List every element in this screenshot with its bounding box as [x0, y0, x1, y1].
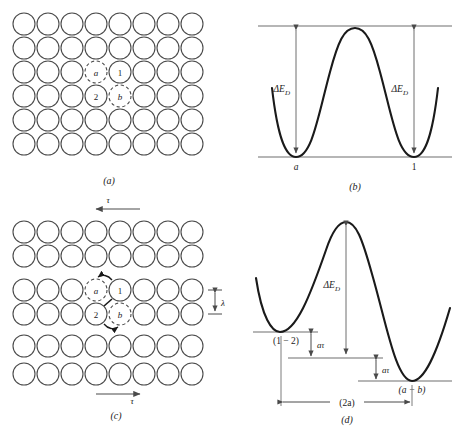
well-label-b-1: 1: [412, 162, 417, 172]
well-label-b-a: a: [294, 162, 299, 172]
barrier-label-b-left: ΔED: [273, 84, 290, 97]
barrier-label-b-right: ΔED: [391, 84, 408, 97]
well-label-d-1: (1 − 2): [273, 336, 299, 347]
atom-label-2-c: 2: [94, 310, 99, 320]
barrier-label-d: ΔED: [323, 280, 340, 293]
atom-label-1: 1: [118, 68, 123, 78]
step-label-d-1: aτ: [317, 340, 325, 350]
lambda-dimension: λ: [208, 290, 225, 314]
atom-label-1-c: 1: [118, 286, 123, 296]
panel-b: ΔED ΔED a 1 (b): [258, 26, 452, 193]
atom-label-2: 2: [94, 92, 99, 102]
atom-label-a-c: a: [94, 286, 99, 296]
atom-label-b-c: b: [118, 310, 123, 320]
step-label-d-2: aτ: [382, 365, 390, 375]
panel-b-caption: (b): [349, 181, 361, 193]
panel-d: ΔED aτ aτ (1 − 2) (a − b) (2a) (d): [253, 222, 452, 426]
atom-label-b: b: [118, 92, 123, 102]
panel-c-caption: (c): [110, 410, 122, 422]
motion-arrow-1-to-a: [98, 275, 112, 280]
lambda-label: λ: [220, 298, 225, 308]
panel-d-caption: (d): [341, 414, 353, 426]
atom-label-a: a: [94, 68, 99, 78]
figure-root: a 1 2 b (a) ΔED ΔED a 1 (b) τ a: [0, 0, 458, 435]
width-label-d: (2a): [339, 398, 354, 409]
dislocation-line-c: [104, 299, 112, 306]
energy-curve-b: [272, 28, 438, 157]
panel-a: a 1 2 b (a): [13, 13, 203, 187]
panel-c: τ a 1 2 b λ τ (c): [13, 195, 225, 422]
energy-curve-d: [256, 222, 450, 381]
atom-grid-a: [13, 13, 203, 155]
motion-arrow-2-to-b: [104, 324, 118, 329]
panel-a-caption: (a): [103, 175, 115, 187]
figure-svg: a 1 2 b (a) ΔED ΔED a 1 (b) τ a: [0, 0, 458, 435]
stress-label-bottom: τ: [130, 396, 134, 406]
stress-label-top: τ: [106, 195, 110, 205]
